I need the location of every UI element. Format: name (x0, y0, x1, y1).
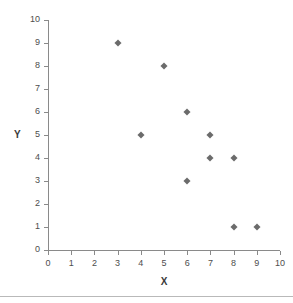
y-tick-mark (44, 89, 48, 90)
x-tick-label: 7 (197, 259, 223, 268)
y-axis-line (48, 20, 49, 250)
x-tick-mark (257, 251, 258, 255)
x-axis-title: X (48, 277, 280, 287)
x-tick-label: 6 (174, 259, 200, 268)
x-tick-mark (234, 251, 235, 255)
y-tick-label: 9 (14, 38, 40, 47)
x-tick-mark (71, 251, 72, 255)
x-tick-label: 5 (151, 259, 177, 268)
y-tick-label: 7 (14, 84, 40, 93)
y-tick-label: 8 (14, 61, 40, 70)
x-tick-mark (164, 251, 165, 255)
y-axis-title: Y (14, 130, 21, 140)
y-tick-label: 10 (14, 15, 40, 24)
y-tick-mark (44, 227, 48, 228)
y-tick-mark (44, 66, 48, 67)
x-tick-mark (118, 251, 119, 255)
y-tick-mark (44, 135, 48, 136)
y-tick-mark (44, 204, 48, 205)
x-tick-label: 4 (128, 259, 154, 268)
y-tick-mark (44, 43, 48, 44)
x-tick-label: 2 (81, 259, 107, 268)
data-point (207, 131, 214, 138)
x-tick-label: 1 (58, 259, 84, 268)
data-point (253, 223, 260, 230)
y-tick-mark (44, 20, 48, 21)
x-tick-mark (94, 251, 95, 255)
data-point (184, 108, 191, 115)
y-tick-label: 1 (14, 222, 40, 231)
x-tick-label: 0 (35, 259, 61, 268)
y-tick-mark (44, 181, 48, 182)
y-tick-label: 0 (14, 245, 40, 254)
data-point (230, 223, 237, 230)
data-point (137, 131, 144, 138)
x-tick-mark (187, 251, 188, 255)
y-tick-label: 4 (14, 153, 40, 162)
x-tick-mark (48, 251, 49, 255)
y-tick-mark (44, 158, 48, 159)
bottom-divider (0, 296, 293, 297)
x-tick-label: 10 (267, 259, 293, 268)
x-tick-mark (210, 251, 211, 255)
x-tick-mark (141, 251, 142, 255)
x-tick-label: 8 (221, 259, 247, 268)
data-point (114, 39, 121, 46)
y-tick-label: 3 (14, 176, 40, 185)
data-point (207, 154, 214, 161)
y-tick-mark (44, 112, 48, 113)
data-point (160, 62, 167, 69)
y-tick-label: 6 (14, 107, 40, 116)
x-tick-label: 3 (105, 259, 131, 268)
data-point (230, 154, 237, 161)
x-tick-mark (280, 251, 281, 255)
scatter-plot: 012345678910 012345678910 Y X (0, 0, 293, 303)
data-point (184, 177, 191, 184)
y-tick-label: 2 (14, 199, 40, 208)
x-tick-label: 9 (244, 259, 270, 268)
